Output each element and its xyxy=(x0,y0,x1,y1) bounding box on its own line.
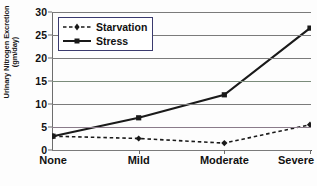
y-tick-mark-25 xyxy=(48,35,52,36)
y-tick-mark-20 xyxy=(48,58,52,59)
legend-item-stress: Stress xyxy=(62,34,147,48)
y-axis-title-line2: (gm/day) xyxy=(11,0,19,117)
y-tick-label-30: 30 xyxy=(35,6,47,18)
legend-label-stress: Stress xyxy=(96,35,128,47)
data-point-starvation-moderate xyxy=(221,140,227,146)
gridline-y-15 xyxy=(52,81,311,82)
y-tick-mark-15 xyxy=(48,81,52,82)
gridline-y-10 xyxy=(52,104,311,105)
y-tick-label-25: 25 xyxy=(35,29,47,41)
x-tick-label-mild: Mild xyxy=(128,154,150,166)
data-point-starvation-mild xyxy=(136,135,142,141)
data-point-stress-moderate xyxy=(222,92,227,97)
data-point-stress-severe xyxy=(307,26,311,31)
gridline-y-5 xyxy=(52,127,311,128)
data-point-stress-mild xyxy=(136,115,141,120)
y-tick-mark-0 xyxy=(48,150,52,151)
x-tick-label-severe: Severe xyxy=(278,154,314,166)
y-axis-title: Urinary Nitrogen Excretion (gm/day) xyxy=(3,0,19,117)
gridline-y-0 xyxy=(52,150,311,151)
x-tick-mark-severe xyxy=(310,150,311,154)
legend-swatch-starvation xyxy=(62,22,92,32)
legend-swatch-stress xyxy=(62,36,92,46)
gridline-y-30 xyxy=(52,12,311,13)
x-tick-label-moderate: Moderate xyxy=(200,154,249,166)
chart-container: Urinary Nitrogen Excretion (gm/day) 0510… xyxy=(0,0,317,186)
y-tick-label-10: 10 xyxy=(35,98,47,110)
x-tick-mark-mild xyxy=(139,150,140,154)
y-tick-mark-5 xyxy=(48,127,52,128)
y-tick-label-5: 5 xyxy=(41,121,47,133)
gridline-y-20 xyxy=(52,58,311,59)
x-tick-label-none: None xyxy=(39,154,67,166)
chart-legend: Starvation Stress xyxy=(58,17,153,51)
y-tick-mark-10 xyxy=(48,104,52,105)
x-tick-mark-moderate xyxy=(224,150,225,154)
y-tick-label-20: 20 xyxy=(35,52,47,64)
legend-label-starvation: Starvation xyxy=(96,21,147,33)
data-point-stress-none xyxy=(52,134,56,139)
y-tick-mark-30 xyxy=(48,12,52,13)
y-tick-label-15: 15 xyxy=(35,75,47,87)
legend-item-starvation: Starvation xyxy=(62,20,147,34)
